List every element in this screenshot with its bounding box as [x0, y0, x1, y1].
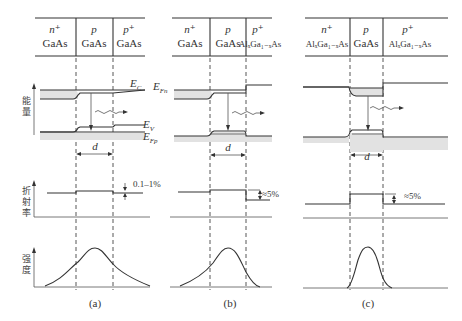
intensity-curve-a [45, 248, 150, 286]
layer-c3-material: AlₓGa₁₋ₓAs [389, 39, 432, 49]
thickness-label-c: d [364, 150, 370, 162]
layer-b2-doping: p [224, 23, 231, 35]
index-axis-label-ch1: 折 [22, 185, 31, 196]
layer-a1-material: GaAs [42, 37, 67, 49]
intensity-axis-label-ch2: 度 [22, 264, 31, 275]
layer-a3-doping: p⁺ [122, 23, 135, 35]
heterojunction-laser-diagram: n⁺ GaAs p GaAs p⁺ GaAs 能 量 EC EV EFp [0, 0, 462, 321]
thickness-label-a: d [92, 140, 98, 152]
photon-wave-icon [232, 112, 262, 115]
layer-b2-material: GaAs [215, 37, 240, 49]
panel-c: n⁺ AlₓGa₁₋ₓAs p GaAs p⁺ AlₓGa₁₋ₓAs d [303, 18, 448, 310]
index-axis-label-ch2: 射 [22, 196, 31, 207]
arrow-up-icon [32, 247, 36, 253]
layer-b1-material: GaAs [177, 37, 202, 49]
panel-b: n⁺ GaAs p GaAs p⁺ AlₓGa₁₋ₓAs EFn d ≈ [152, 18, 282, 310]
layer-c1-material: AlₓGa₁₋ₓAs [306, 39, 349, 49]
layer-a2-doping: p [90, 23, 97, 35]
intensity-curve-c [347, 247, 392, 288]
layer-c2-doping: p [362, 23, 369, 35]
intensity-axis-label-ch1: 强 [22, 254, 31, 264]
layer-a3-material: GaAs [116, 37, 141, 49]
index-step-label-c: ≈5% [404, 191, 421, 201]
intensity-curve-b [180, 248, 260, 287]
layer-c3-doping: p⁺ [401, 23, 414, 35]
energy-axis-label-ch1: 能 [22, 95, 31, 106]
caption-c: (c) [362, 297, 375, 310]
layer-b3-material: AlₓGa₁₋ₓAs [239, 39, 282, 49]
photon-wave-icon [370, 107, 400, 110]
index-step-label-a: 0.1–1% [133, 179, 161, 189]
index-axis-label-ch3: 率 [22, 207, 31, 218]
index-step-label-b: ≈5% [262, 189, 279, 199]
layer-c2-material: GaAs [353, 37, 378, 49]
energy-axis-label-ch2: 量 [22, 107, 31, 117]
arrow-up-icon [32, 180, 36, 186]
caption-b: (b) [224, 297, 237, 310]
layer-a1-doping: n⁺ [49, 23, 61, 35]
efn-label-b: EFn [152, 80, 168, 95]
photon-wave-icon [95, 111, 125, 114]
layer-b3-doping: p⁺ [251, 23, 264, 35]
thickness-label-b: d [225, 141, 231, 153]
layer-a2-material: GaAs [81, 37, 106, 49]
layer-b1-doping: n⁺ [184, 23, 196, 35]
layer-c1-doping: n⁺ [321, 23, 333, 35]
caption-a: (a) [89, 297, 102, 310]
arrow-up-icon [32, 83, 36, 89]
diagram-svg: n⁺ GaAs p GaAs p⁺ GaAs 能 量 EC EV EFp [0, 0, 462, 321]
panel-a: n⁺ GaAs p GaAs p⁺ GaAs 能 量 EC EV EFp [22, 18, 161, 310]
